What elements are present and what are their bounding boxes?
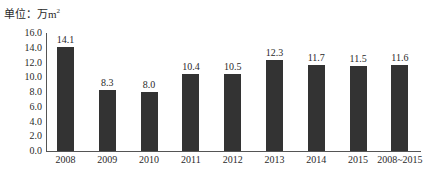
y-tick-label: 10.0 [0,72,42,82]
bar-2014 [308,65,325,151]
bar-2008~2015 [391,65,408,151]
bar-2012 [224,74,241,151]
bar-value-label: 11.5 [338,54,378,64]
y-tick-label: 6.0 [0,102,42,112]
bar-2013 [266,60,283,151]
y-tick-label: 4.0 [0,117,42,127]
bar-value-label: 11.7 [296,53,336,63]
unit-label: 单位：万m2 [4,5,60,21]
bar-value-label: 14.1 [46,35,86,45]
unit-superscript: 2 [57,7,61,15]
y-tick-label: 16.0 [0,28,42,38]
y-tick-label: 8.0 [0,87,42,97]
y-tick-label: 14.0 [0,43,42,53]
bar-2010 [141,92,158,151]
bar-value-label: 10.5 [213,62,253,72]
bar-2011 [182,74,199,151]
bar-value-label: 11.6 [380,53,420,63]
unit-text: 单位：万m [4,8,57,20]
bar-value-label: 10.4 [171,62,211,72]
y-tick-label: 2.0 [0,131,42,141]
bar-2009 [99,90,116,151]
x-tick-label: 2008~2015 [370,155,430,165]
bar-value-label: 8.3 [87,78,127,88]
y-axis-line [46,33,47,151]
bar-value-label: 8.0 [129,80,169,90]
y-tick-label: 12.0 [0,58,42,68]
x-axis-line [46,151,421,152]
bar-2008 [57,47,74,151]
bar-2015 [350,66,367,151]
bar-value-label: 12.3 [255,48,295,58]
